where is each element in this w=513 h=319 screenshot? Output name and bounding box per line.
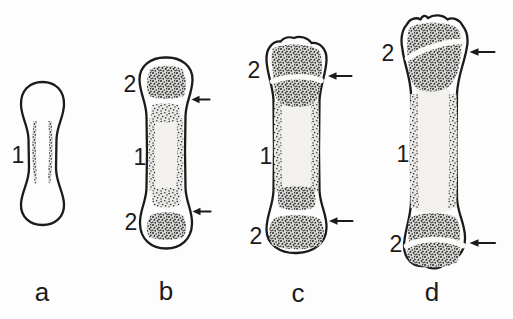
growth-plate-arrow-icon — [470, 239, 496, 246]
bone-c-metaphysis-bottom-stipple — [278, 186, 316, 210]
bone-d-shaft-cavity — [416, 88, 452, 213]
bone-c-shaft-cavity — [280, 98, 315, 198]
bone-stage-b-illustration — [139, 57, 210, 248]
growth-plate-arrow-icon — [328, 72, 352, 79]
secondary-center-label-c-bottom: 2 — [250, 225, 263, 248]
secondary-center-label-b-bottom: 2 — [125, 211, 138, 234]
bone-stage-c-illustration — [266, 37, 352, 253]
primary-center-label-b: 1 — [134, 146, 147, 169]
growth-plate-arrow-icon — [193, 208, 211, 215]
bone-ossification-figure: 1 2 1 2 2 1 2 2 1 2 a b c d — [0, 0, 513, 319]
bone-c-shaft-stipple-left — [274, 102, 283, 192]
bone-d-shaft-stipple-left — [410, 94, 419, 208]
secondary-center-label-c-top: 2 — [248, 59, 261, 82]
growth-plate-arrow-icon — [470, 48, 495, 55]
primary-center-label-d: 1 — [397, 143, 410, 166]
growth-plate-arrow-icon — [192, 96, 210, 103]
stage-letter-c: c — [292, 280, 305, 306]
bone-c-shaft-stipple-right — [311, 102, 320, 192]
stage-letter-d: d — [425, 279, 439, 305]
primary-center-label-a: 1 — [12, 144, 25, 167]
bone-a-outline — [21, 82, 64, 225]
bone-c-epiphysis-bottom-stipple — [269, 215, 324, 249]
primary-center-label-c: 1 — [260, 145, 273, 168]
growth-plate-arrow-icon — [329, 217, 353, 224]
bone-stage-a-illustration — [21, 82, 64, 225]
bone-diagram-canvas — [0, 0, 513, 319]
secondary-center-label-d-top: 2 — [382, 42, 395, 65]
bone-b-metaphysis-bottom-stipple — [152, 188, 181, 208]
bone-b-epiphysis-bottom-stipple — [147, 212, 186, 240]
bone-b-epiphysis-top-stipple — [147, 66, 186, 99]
bone-d-shaft-stipple-right — [448, 94, 457, 208]
stage-letter-b: b — [159, 278, 173, 304]
bone-stage-d-illustration — [402, 15, 495, 268]
stage-letter-a: a — [35, 279, 49, 305]
secondary-center-label-d-bottom: 2 — [390, 233, 403, 256]
secondary-center-label-b-top: 2 — [124, 73, 137, 96]
